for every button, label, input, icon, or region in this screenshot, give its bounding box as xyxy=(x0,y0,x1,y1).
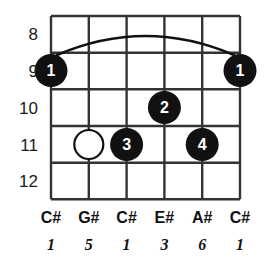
interval-string2: 5 xyxy=(70,237,108,253)
note-name-string5: A# xyxy=(183,210,221,226)
string-lines xyxy=(51,16,240,199)
finger-markers xyxy=(35,54,257,161)
fret-number-12: 12 xyxy=(0,173,38,190)
note-name-string4: E# xyxy=(145,210,183,226)
interval-string5: 6 xyxy=(183,237,221,253)
open-circle-string2[interactable] xyxy=(74,130,103,159)
fret-number-8: 8 xyxy=(0,26,38,43)
fretboard-graphic xyxy=(0,0,270,268)
note-name-string6: C# xyxy=(221,210,259,226)
finger-dot-string1[interactable] xyxy=(35,54,68,87)
fret-number-9: 9 xyxy=(0,63,38,80)
finger-dot-string5[interactable] xyxy=(186,128,219,161)
chord-diagram: 1 1 2 3 4 8 9 10 11 12 C# G# C# E# A# C#… xyxy=(0,0,270,268)
interval-string3: 1 xyxy=(108,237,146,253)
fret-lines xyxy=(51,16,240,199)
interval-string1: 1 xyxy=(32,237,70,253)
interval-string6: 1 xyxy=(221,237,259,253)
note-name-string3: C# xyxy=(108,210,146,226)
note-name-string2: G# xyxy=(70,210,108,226)
note-name-string1: C# xyxy=(32,210,70,226)
finger-dot-string6[interactable] xyxy=(224,54,257,87)
fret-number-11: 11 xyxy=(0,136,38,153)
interval-string4: 3 xyxy=(145,237,183,253)
finger-dot-string4[interactable] xyxy=(148,91,181,124)
finger-dot-string3[interactable] xyxy=(110,128,143,161)
fret-number-10: 10 xyxy=(0,99,38,116)
